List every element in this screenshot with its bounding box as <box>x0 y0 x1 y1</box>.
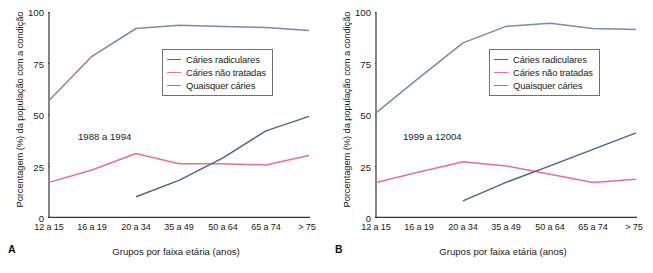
x-axis-title-a: Grupos por faixa etária (anos) <box>40 246 312 257</box>
y-tick-b-100: 100 <box>355 7 371 18</box>
annotation-period-a: 1988 a 1994 <box>78 131 131 142</box>
x-tick-a-5: 50 a 64 <box>208 222 237 232</box>
y-tick-a-100: 100 <box>28 7 44 18</box>
legend-label-any-caries-a: Quaisquer cáries <box>186 80 255 91</box>
legend-label-untreated-caries-a: Cáries não tratadas <box>186 67 266 78</box>
y-tick-labels-a: 100 75 50 25 0 <box>14 12 44 218</box>
legend-item-root-caries-a: Cáries radiculares <box>167 53 266 66</box>
legend-item-any-caries-a: Quaisquer cáries <box>167 79 266 92</box>
plot-area-b: Cáries radiculares Cáries não tratadas Q… <box>375 12 637 218</box>
x-axis-title-b: Grupos por faixa etária (anos) <box>367 246 639 257</box>
panel-letter-b: B <box>335 243 343 255</box>
legend-label-root-caries-a: Cáries radiculares <box>186 54 260 65</box>
x-tick-a-1: 12 a 15 <box>34 222 63 232</box>
panel-a: Porcentagem (%) da população com a condi… <box>0 0 326 273</box>
legend-swatch-untreated-caries-icon <box>167 72 181 73</box>
legend-swatch-any-caries-icon <box>494 85 508 86</box>
y-tick-a-50: 50 <box>33 110 44 121</box>
x-tick-a-7: > 75 <box>298 222 315 232</box>
legend-label-root-caries-b: Cáries radiculares <box>513 54 587 65</box>
x-tick-b-6: 65 a 74 <box>578 222 607 232</box>
legend-swatch-root-caries-icon <box>494 59 508 60</box>
annotation-period-b: 1999 a 12004 <box>403 131 462 142</box>
x-tick-a-3: 20 a 34 <box>121 222 150 232</box>
series-line-untreated-caries-b <box>376 162 636 183</box>
legend-a: Cáries radiculares Cáries não tratadas Q… <box>162 49 273 96</box>
x-tick-b-7: > 75 <box>625 222 642 232</box>
x-tick-a-6: 65 a 74 <box>251 222 280 232</box>
x-tick-b-2: 16 a 19 <box>404 222 433 232</box>
legend-item-any-caries-b: Quaisquer cáries <box>494 79 593 92</box>
x-tick-a-2: 16 a 19 <box>77 222 106 232</box>
legend-item-root-caries-b: Cáries radiculares <box>494 53 593 66</box>
legend-label-any-caries-b: Quaisquer cáries <box>513 80 582 91</box>
y-tick-b-25: 25 <box>360 161 371 172</box>
series-line-untreated-caries-a <box>49 154 309 183</box>
y-tick-a-25: 25 <box>33 161 44 172</box>
y-tick-a-75: 75 <box>33 58 44 69</box>
series-line-root-caries-b <box>463 133 636 201</box>
panel-letter-a: A <box>8 243 16 255</box>
figure-caries-prevalence: Porcentagem (%) da população com a condi… <box>0 0 653 273</box>
legend-swatch-untreated-caries-icon <box>494 72 508 73</box>
x-tick-b-5: 50 a 64 <box>535 222 564 232</box>
legend-b: Cáries radiculares Cáries não tratadas Q… <box>489 49 600 96</box>
y-tick-labels-b: 100 75 50 25 0 <box>341 12 371 218</box>
legend-swatch-any-caries-icon <box>167 85 181 86</box>
y-tick-b-75: 75 <box>360 58 371 69</box>
legend-swatch-root-caries-icon <box>167 59 181 60</box>
plot-svg-a <box>48 12 310 218</box>
series-line-root-caries-a <box>136 116 309 196</box>
x-tick-b-3: 20 a 34 <box>448 222 477 232</box>
x-tick-a-4: 35 a 49 <box>164 222 193 232</box>
legend-label-untreated-caries-b: Cáries não tratadas <box>513 67 593 78</box>
x-tick-labels-a: 12 a 15 16 a 19 20 a 34 35 a 49 50 a 64 … <box>30 222 326 236</box>
legend-item-untreated-caries-b: Cáries não tratadas <box>494 66 593 79</box>
y-tick-b-50: 50 <box>360 110 371 121</box>
x-tick-labels-b: 12 a 15 16 a 19 20 a 34 35 a 49 50 a 64 … <box>357 222 653 236</box>
x-tick-b-4: 35 a 49 <box>491 222 520 232</box>
plot-area-a: Cáries radiculares Cáries não tratadas Q… <box>48 12 310 218</box>
legend-item-untreated-caries-a: Cáries não tratadas <box>167 66 266 79</box>
x-tick-b-1: 12 a 15 <box>361 222 390 232</box>
plot-svg-b <box>375 12 637 218</box>
panel-b: Porcentagem (%) da população com a condi… <box>327 0 653 273</box>
